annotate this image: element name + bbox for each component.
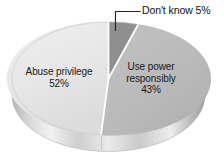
pie-chart: Abuse privilege 52% Use power responsibl… [0, 0, 224, 161]
slice-label-dont-know: Don't know 5% [142, 4, 210, 17]
pie-top-face [7, 22, 211, 136]
pie-chart-graphic [0, 0, 224, 161]
